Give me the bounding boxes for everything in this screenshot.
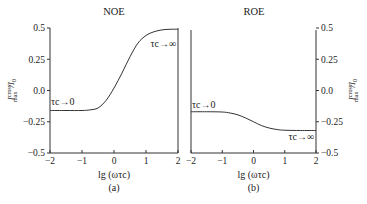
- y-axis-label-tail-sub: 0: [11, 79, 17, 82]
- y-axis-label: Icrossmax/I0: [347, 79, 359, 102]
- annotation: τc→0: [192, 99, 215, 110]
- x-tick-label: 1: [144, 156, 149, 166]
- y-tick-label: −0.25: [321, 117, 343, 127]
- chart-title: ROE: [244, 6, 265, 17]
- x-tick-label: 0: [112, 156, 117, 166]
- annotation: τc→∞: [150, 38, 176, 49]
- y-axis-label: Icrossmax/I0: [6, 79, 18, 102]
- y-tick-label: −0.5: [321, 148, 338, 158]
- y-tick-label: −0.5: [28, 148, 45, 158]
- y-axis-label-sub: max: [12, 92, 18, 102]
- x-tick-label: 1: [282, 156, 287, 166]
- y-tick-label: 0.5: [321, 23, 333, 33]
- y-tick-label: 0.0: [321, 86, 333, 96]
- y-tick-label: 0.25: [321, 55, 338, 65]
- panel-label: (b): [248, 182, 260, 194]
- x-tick-label: 0: [251, 156, 256, 166]
- x-axis-label: lg (ωτc): [98, 169, 130, 181]
- x-tick-label: −2: [45, 156, 55, 166]
- x-tick-label: −1: [77, 156, 87, 166]
- panel-roe: ROE−2−10120.50.250.0−0.25−0.5Icrossmax/I…: [186, 6, 359, 194]
- y-axis-label-tail-sub: 0: [352, 79, 358, 82]
- x-tick-label: −1: [217, 156, 227, 166]
- y-tick-label: 0.25: [28, 55, 45, 65]
- chart-title: NOE: [103, 6, 125, 17]
- series-line-roe: [191, 112, 316, 131]
- x-tick-label: 2: [176, 156, 181, 166]
- x-tick-label: 2: [314, 156, 319, 166]
- y-tick-label: −0.25: [23, 117, 45, 127]
- panel-label: (a): [108, 182, 119, 194]
- y-axis-label-sub: max: [353, 92, 359, 102]
- annotation: τc→∞: [288, 131, 314, 142]
- x-tick-label: −2: [186, 156, 196, 166]
- x-axis-label: lg (ωτc): [238, 169, 270, 181]
- annotation: τc→0: [51, 96, 74, 107]
- panel-noe: NOE−2−10120.50.250.0−0.25−0.5Icrossmax/I…: [6, 6, 181, 194]
- y-tick-label: 0.5: [33, 23, 45, 33]
- figure: NOE−2−10120.50.250.0−0.25−0.5Icrossmax/I…: [0, 0, 367, 204]
- y-tick-label: 0.0: [33, 86, 45, 96]
